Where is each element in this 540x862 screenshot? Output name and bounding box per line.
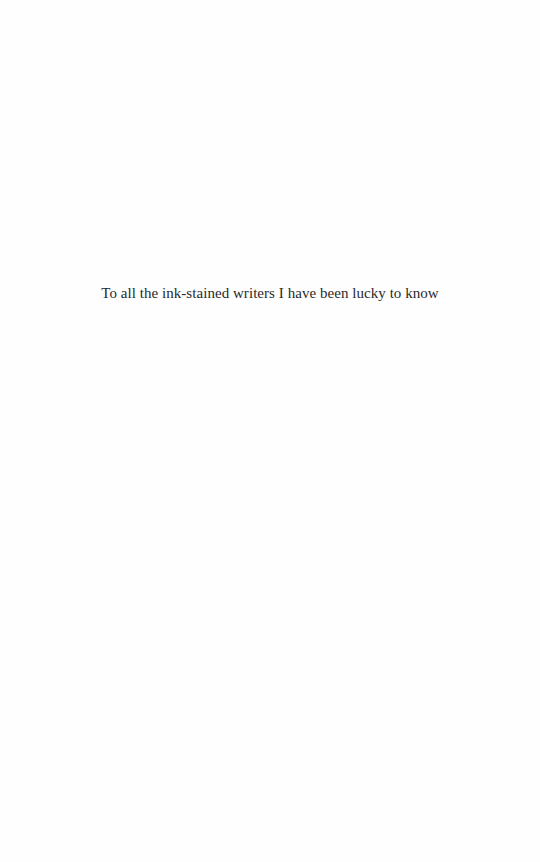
dedication-text: To all the ink-stained writers I have be…: [0, 283, 540, 303]
book-page: To all the ink-stained writers I have be…: [0, 0, 540, 862]
